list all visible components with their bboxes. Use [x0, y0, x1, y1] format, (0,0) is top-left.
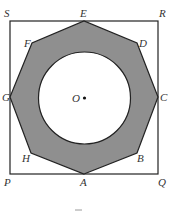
label-O: O	[72, 92, 80, 104]
label-A: A	[79, 176, 87, 188]
label-H: H	[21, 152, 31, 164]
label-B: B	[137, 152, 144, 164]
label-E: E	[79, 7, 87, 19]
geometry-diagram: SERFDGOCHBPAQ	[0, 0, 172, 212]
label-F: F	[23, 37, 31, 49]
label-R: R	[158, 7, 166, 19]
label-D: D	[138, 37, 147, 49]
label-C: C	[160, 91, 168, 103]
label-Q: Q	[158, 176, 166, 188]
label-G: G	[2, 91, 10, 103]
label-S: S	[4, 7, 10, 19]
label-P: P	[3, 176, 11, 188]
center-point-O	[83, 96, 86, 99]
